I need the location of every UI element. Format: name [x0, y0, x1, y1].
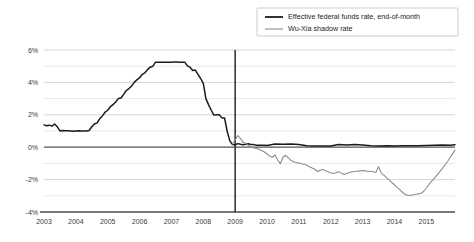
y-axis-tick-label: 6% [28, 47, 38, 54]
x-axis-tick-label: 2003 [36, 218, 52, 225]
rate-comparison-line-chart: 6%4%2%0%-2%-4% 2003200420052006200720082… [0, 0, 474, 242]
y-axis-labels: 6%4%2%0%-2%-4% [26, 47, 38, 216]
y-axis-tick-label: 0% [28, 144, 38, 151]
y-axis-tick-label: -2% [26, 176, 38, 183]
y-axis-tick-label: -4% [26, 209, 38, 216]
chart-legend: Effective federal funds rate, end-of-mon… [257, 8, 458, 36]
grid-layer [44, 50, 455, 196]
y-axis-tick-label: 4% [28, 79, 38, 86]
x-axis-tick-label: 2009 [227, 218, 243, 225]
x-axis-tick-label: 2006 [132, 218, 148, 225]
x-axis-tick-label: 2011 [291, 218, 306, 225]
x-axis-tick-label: 2013 [355, 218, 371, 225]
series-line-fed-funds-rate [44, 62, 455, 146]
x-axis-tick-label: 2012 [323, 218, 339, 225]
x-axis-tick-label: 2015 [419, 218, 435, 225]
x-axis-tick-label: 2004 [68, 218, 84, 225]
x-axis-tick-label: 2007 [164, 218, 180, 225]
legend-label: Wu-Xia shadow rate [288, 24, 353, 33]
x-axis-tick-label: 2008 [196, 218, 212, 225]
chart-container: 6%4%2%0%-2%-4% 2003200420052006200720082… [0, 0, 474, 242]
series-layer [44, 62, 455, 195]
y-axis-tick-label: 2% [28, 111, 38, 118]
x-axis-tick-label: 2014 [387, 218, 403, 225]
x-axis-tick-label: 2010 [259, 218, 275, 225]
x-axis-tick-label: 2005 [100, 218, 116, 225]
x-axis-labels: 2003200420052006200720082009201020112012… [36, 218, 434, 225]
legend-label: Effective federal funds rate, end-of-mon… [288, 12, 420, 21]
